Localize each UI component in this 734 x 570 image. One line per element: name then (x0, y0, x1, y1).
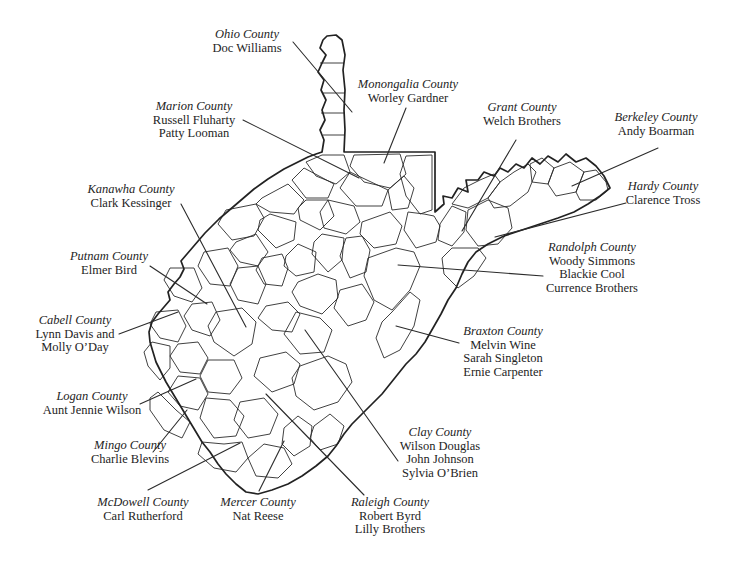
artist-name: Nat Reese (220, 510, 296, 524)
county-name: Ohio County (212, 28, 281, 42)
county-name: Putnam County (70, 250, 148, 264)
county-name: Clay County (400, 426, 480, 440)
artist-name: Charlie Blevins (91, 453, 169, 467)
artist-name: Woody Simmons (546, 255, 638, 269)
label-grant-county: Grant County Welch Brothers (483, 101, 561, 128)
label-mercer-county: Mercer County Nat Reese (220, 496, 296, 523)
artist-name: Andy Boarman (615, 125, 698, 139)
label-hardy-county: Hardy County Clarence Tross (626, 180, 701, 207)
county-name: Mingo County (91, 439, 169, 453)
artist-name: Carl Rutherford (97, 510, 188, 524)
label-berkeley-county: Berkeley County Andy Boarman (615, 111, 698, 138)
label-cabell-county: Cabell County Lynn Davis and Molly O’Day (35, 314, 114, 355)
artist-name: Wilson Douglas (400, 440, 480, 454)
artist-name: Melvin Wine (463, 339, 543, 353)
label-marion-county: Marion County Russell Fluharty Patty Loo… (153, 100, 235, 141)
artist-name: Lilly Brothers (351, 523, 429, 537)
county-name: Grant County (483, 101, 561, 115)
artist-name: Robert Byrd (351, 510, 429, 524)
label-raleigh-county: Raleigh County Robert Byrd Lilly Brother… (351, 496, 429, 537)
artist-name: Ernie Carpenter (463, 366, 543, 380)
county-name: Logan County (43, 390, 142, 404)
county-name: Monongalia County (358, 78, 458, 92)
artist-name: Molly O’Day (35, 341, 114, 355)
label-mcdowell-county: McDowell County Carl Rutherford (97, 496, 188, 523)
artist-name: Clarence Tross (626, 194, 701, 208)
label-clay-county: Clay County Wilson Douglas John Johnson … (400, 426, 480, 480)
county-name: Kanawha County (87, 183, 174, 197)
county-name: Braxton County (463, 325, 543, 339)
artist-name: John Johnson (400, 453, 480, 467)
artist-name: Currence Brothers (546, 282, 638, 296)
artist-name: Sarah Singleton (463, 352, 543, 366)
label-putnam-county: Putnam County Elmer Bird (70, 250, 148, 277)
county-name: Randolph County (546, 241, 638, 255)
county-name: Marion County (153, 100, 235, 114)
county-name: Hardy County (626, 180, 701, 194)
artist-name: Russell Fluharty (153, 114, 235, 128)
label-braxton-county: Braxton County Melvin Wine Sarah Singlet… (463, 325, 543, 379)
label-logan-county: Logan County Aunt Jennie Wilson (43, 390, 142, 417)
county-name: Berkeley County (615, 111, 698, 125)
artist-name: Elmer Bird (70, 264, 148, 278)
county-name: Mercer County (220, 496, 296, 510)
label-mingo-county: Mingo County Charlie Blevins (91, 439, 169, 466)
artist-name: Welch Brothers (483, 115, 561, 129)
artist-name: Worley Gardner (358, 92, 458, 106)
artist-name: Clark Kessinger (87, 197, 174, 211)
artist-name: Patty Looman (153, 127, 235, 141)
label-kanawha-county: Kanawha County Clark Kessinger (87, 183, 174, 210)
label-randolph-county: Randolph County Woody Simmons Blackie Co… (546, 241, 638, 295)
county-name: Raleigh County (351, 496, 429, 510)
county-name: Cabell County (35, 314, 114, 328)
artist-name: Doc Williams (212, 42, 281, 56)
artist-name: Sylvia O’Brien (400, 467, 480, 481)
label-monongalia-county: Monongalia County Worley Gardner (358, 78, 458, 105)
west-virginia-musicians-map: Ohio County Doc Williams Monongalia Coun… (0, 0, 734, 570)
artist-name: Aunt Jennie Wilson (43, 404, 142, 418)
artist-name: Lynn Davis and (35, 328, 114, 342)
label-ohio-county: Ohio County Doc Williams (212, 28, 281, 55)
county-name: McDowell County (97, 496, 188, 510)
artist-name: Blackie Cool (546, 268, 638, 282)
